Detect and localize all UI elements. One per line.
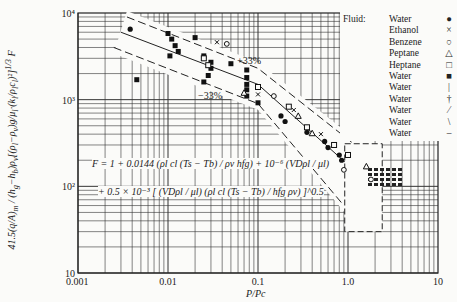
filled-square-icon: ■: [443, 71, 455, 82]
formula-line-1: F = 1 + 0.0144 (ρl cl (Ts − Tb) / ρv hfg…: [92, 158, 329, 169]
svg-text:10: 10: [433, 276, 443, 287]
svg-text:0.01: 0.01: [159, 276, 177, 287]
svg-text:10²: 10²: [62, 181, 75, 192]
cross-icon: ×: [443, 25, 455, 36]
legend-item: Benzene○: [343, 37, 455, 48]
legend-item: Water†: [343, 94, 455, 105]
legend-item: Peptane△: [343, 48, 455, 59]
formula-line-2: + 0.5 × 10⁻³ [ (VDρl / μl) (ρl cl (Ts − …: [98, 186, 324, 197]
svg-text:10: 10: [65, 268, 75, 279]
open-triangle-icon: △: [443, 48, 455, 59]
legend-item: Water|: [343, 82, 455, 93]
annotation-plus33: +33%: [237, 55, 261, 66]
open-circle-icon: ○: [443, 37, 455, 48]
x-axis-label: P/Pc: [246, 288, 265, 299]
legend: Fluid:Water●Ethanol×Benzene○Peptane△Hept…: [340, 12, 457, 141]
svg-text:10⁴: 10⁴: [62, 8, 76, 19]
annotation-minus33: −33%: [198, 90, 222, 101]
legend-item: Water–: [343, 128, 455, 139]
legend-item: Ethanol×: [343, 25, 455, 36]
slash-icon: ⁄: [443, 105, 455, 116]
legend-item: Water⁄: [343, 105, 455, 116]
svg-text:1.0: 1.0: [342, 276, 355, 287]
vertical-bar-icon: |: [443, 82, 455, 93]
svg-text:10³: 10³: [62, 95, 75, 106]
legend-item: Water■: [343, 71, 455, 82]
open-square-icon: □: [443, 60, 455, 71]
dash-icon: –: [443, 128, 455, 139]
legend-item: Water\: [343, 117, 455, 128]
y-axis-label: 41.5(q/A)m / (hg−hb)ρv[(ρl−ρv)g/μl·(kl/ρ…: [4, 51, 20, 250]
legend-item: Heptane□: [343, 60, 455, 71]
dagger-icon: †: [443, 94, 455, 105]
backslash-icon: \: [443, 117, 455, 128]
legend-item: Fluid:Water●: [343, 14, 455, 25]
filled-circle-icon: ●: [443, 14, 455, 25]
svg-text:0.1: 0.1: [252, 276, 265, 287]
